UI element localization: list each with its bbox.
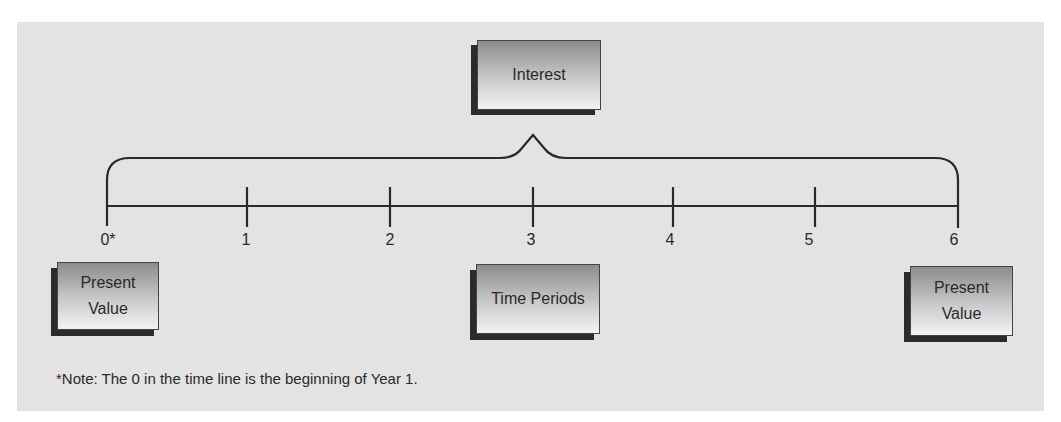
present-value-left-line1: Present — [80, 270, 135, 296]
present-value-left-box: Present Value — [57, 262, 159, 330]
present-value-right-box: Present Value — [910, 266, 1013, 336]
tick-label-6: 6 — [950, 231, 959, 249]
time-periods-label: Time Periods — [491, 286, 585, 312]
tick-label-4: 4 — [666, 231, 675, 249]
tick-label-2: 2 — [386, 231, 395, 249]
present-value-left-line2: Value — [88, 296, 128, 322]
time-periods-box: Time Periods — [476, 264, 600, 334]
tick-label-0: 0* — [100, 231, 115, 249]
interest-label: Interest — [512, 62, 565, 88]
tick-label-5: 5 — [805, 231, 814, 249]
footnote: *Note: The 0 in the time line is the beg… — [56, 370, 418, 387]
tick-label-3: 3 — [527, 231, 536, 249]
interest-box: Interest — [477, 40, 601, 110]
present-value-right-line1: Present — [934, 275, 989, 301]
tick-label-1: 1 — [242, 231, 251, 249]
present-value-right-line2: Value — [942, 301, 982, 327]
